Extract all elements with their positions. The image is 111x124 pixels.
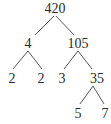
tree-edges	[13, 16, 104, 104]
node-3: 3	[59, 71, 66, 86]
edge-n35-n5	[80, 86, 93, 104]
node-420: 420	[45, 1, 66, 16]
edge-n420-n105	[56, 16, 74, 35]
edge-n105-n3	[64, 51, 78, 69]
factor-tree-diagram: 420 4 105 2 2 3 35 5 7	[0, 0, 111, 124]
node-5: 5	[75, 106, 82, 121]
edge-n420-n4	[35, 16, 54, 35]
edge-n105-n35	[78, 51, 92, 69]
edge-n35-n7	[93, 86, 104, 104]
edge-n4-n2b	[28, 51, 42, 69]
node-2-left: 2	[9, 71, 16, 86]
node-7: 7	[102, 106, 109, 121]
edge-n4-n2a	[13, 51, 28, 69]
node-35: 35	[90, 71, 104, 86]
node-4: 4	[25, 36, 32, 51]
node-2-right: 2	[38, 71, 45, 86]
node-105: 105	[68, 36, 89, 51]
